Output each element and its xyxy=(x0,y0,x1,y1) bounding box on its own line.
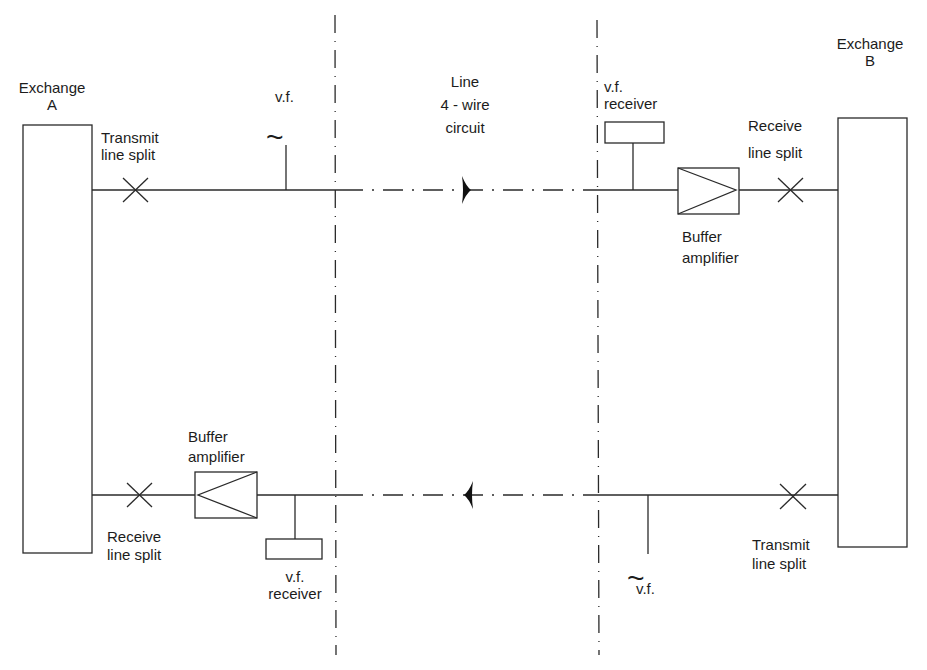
top-transmit-split-label-line1: Transmit xyxy=(101,129,159,146)
top-vf-tilde-icon: ~ xyxy=(266,122,284,152)
bottom-vf-receiver-box xyxy=(266,539,322,559)
boundary-left xyxy=(335,15,336,655)
exchange-b-label-line1: Exchange xyxy=(827,35,913,52)
exchange-b-label-line2: B xyxy=(827,52,913,69)
top-buffer-amplifier-label-line2: amplifier xyxy=(682,247,739,268)
boundary-right xyxy=(597,20,599,655)
bottom-buffer-amplifier-label-line2: amplifier xyxy=(188,447,245,467)
top-buffer-amplifier-label-line1: Buffer xyxy=(682,226,739,247)
line-section-label-line3: circuit xyxy=(410,116,520,139)
bottom-direction-arrow-left-icon xyxy=(464,481,473,509)
top-transmit-split-label: Transmit line split xyxy=(101,129,159,163)
line-section-label-line2: 4 - wire xyxy=(410,93,520,116)
bottom-receive-split-label-line2: line split xyxy=(107,546,161,564)
top-vf-source-label: v.f. xyxy=(275,88,294,105)
bottom-transmit-split-label: Transmit line split xyxy=(752,535,810,573)
top-transmit-split-label-line2: line split xyxy=(101,146,159,163)
bottom-receive-split-label-line1: Receive xyxy=(107,528,161,546)
top-receive-split-label: Receive line split xyxy=(748,112,802,166)
bottom-buffer-amplifier-label-line1: Buffer xyxy=(188,427,245,447)
top-receive-split-label-line2: line split xyxy=(748,139,802,166)
exchange-b-label: Exchange B xyxy=(827,35,913,69)
exchange-a-label: Exchange A xyxy=(9,79,95,113)
bottom-vf-source-label: v.f. xyxy=(636,580,655,597)
line-section-label-line1: Line xyxy=(410,70,520,93)
top-buffer-amplifier-icon xyxy=(678,168,739,214)
top-vf-receiver-label: v.f. receiver xyxy=(604,78,657,112)
bottom-vf-receiver-label-line2: receiver xyxy=(252,585,338,602)
top-buffer-amplifier-label: Buffer amplifier xyxy=(682,226,739,268)
bottom-receive-split-label: Receive line split xyxy=(107,528,161,564)
exchange-a-box xyxy=(23,125,92,553)
line-section-label: Line 4 - wire circuit xyxy=(410,70,520,139)
bottom-transmit-split-label-line2: line split xyxy=(752,554,810,573)
exchange-a-label-line2: A xyxy=(9,96,95,113)
bottom-vf-receiver-label: v.f. receiver xyxy=(252,568,338,602)
exchange-a-label-line1: Exchange xyxy=(9,79,95,96)
bottom-buffer-amplifier-icon xyxy=(195,472,257,518)
top-vf-receiver-box xyxy=(605,122,664,143)
bottom-vf-receiver-label-line1: v.f. xyxy=(252,568,338,585)
four-wire-circuit-diagram: Exchange A Exchange B Line 4 - wire circ… xyxy=(0,0,927,670)
bottom-buffer-amplifier-label: Buffer amplifier xyxy=(188,427,245,467)
exchange-b-box xyxy=(838,118,907,547)
bottom-transmit-split-label-line1: Transmit xyxy=(752,535,810,554)
top-direction-arrow-right-icon xyxy=(462,176,471,204)
bottom-transmit-split-cross-icon xyxy=(780,484,806,509)
top-vf-receiver-label-line1: v.f. xyxy=(604,78,657,95)
top-vf-receiver-label-line2: receiver xyxy=(604,95,657,112)
top-receive-split-label-line1: Receive xyxy=(748,112,802,139)
